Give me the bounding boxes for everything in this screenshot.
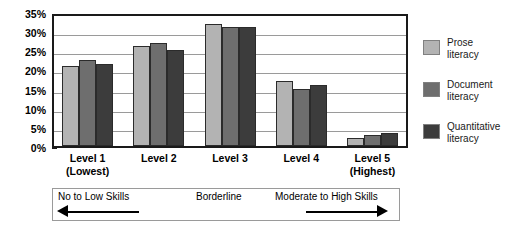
x-axis-category-label: Level 4 — [266, 152, 337, 165]
legend-swatch-icon — [423, 40, 440, 55]
legend-label-line1: Quantitative — [447, 121, 500, 132]
legend-swatch-icon — [423, 82, 440, 97]
x-axis-category-label: Level 1(Lowest) — [52, 152, 123, 178]
y-axis-tick-label: 35% — [0, 9, 46, 20]
bar — [62, 66, 79, 146]
bar-group — [347, 16, 398, 146]
annotation-borderline: Borderline — [196, 191, 242, 202]
y-axis-tick-label: 25% — [0, 47, 46, 58]
y-axis: 0%5%10%15%20%25%30%35% — [0, 8, 46, 154]
plot-area — [52, 14, 408, 148]
legend-item[interactable]: Documentliteracy — [423, 80, 519, 114]
x-axis-category-line1: Level 4 — [283, 152, 319, 164]
skills-annotation-band: No to Low Skills Borderline Moderate to … — [52, 188, 400, 221]
x-axis-category-line1: Level 3 — [212, 152, 248, 164]
x-axis-category-line2: (Highest) — [337, 165, 408, 178]
bar-group — [205, 16, 256, 146]
legend-label-line1: Document — [447, 79, 493, 90]
bar — [310, 85, 327, 146]
bar — [276, 81, 293, 146]
legend-label-line1: Prose — [447, 37, 473, 48]
annotation-no-to-low-skills: No to Low Skills — [58, 191, 129, 202]
bar — [133, 46, 150, 146]
bar-chart-figure: 0%5%10%15%20%25%30%35% Level 1(Lowest)Le… — [0, 0, 519, 234]
bar — [205, 24, 222, 147]
bars-layer — [54, 16, 406, 146]
right-arrow-icon — [306, 211, 378, 213]
x-axis-category-label: Level 3 — [194, 152, 265, 165]
x-axis-category-labels: Level 1(Lowest)Level 2Level 3Level 4Leve… — [52, 152, 408, 186]
legend-label: Quantitativeliteracy — [447, 121, 519, 144]
left-arrow-icon — [67, 211, 139, 213]
legend-label-line2: literacy — [447, 49, 479, 60]
right-arrow-head-icon — [377, 205, 388, 217]
annotation-moderate-to-high-skills: Moderate to High Skills — [275, 191, 378, 202]
legend-label-line2: literacy — [447, 91, 479, 102]
bar — [293, 89, 310, 146]
y-axis-tick-label: 10% — [0, 104, 46, 115]
bar-group — [133, 16, 184, 146]
bar — [167, 50, 184, 146]
bar — [381, 133, 398, 146]
legend: ProseliteracyDocumentliteracyQuantitativ… — [423, 38, 519, 164]
legend-label: Proseliteracy — [447, 37, 519, 60]
x-axis-category-line2: (Lowest) — [52, 165, 123, 178]
y-axis-tickmark — [52, 148, 57, 149]
y-axis-tick-label: 30% — [0, 28, 46, 39]
legend-swatch-icon — [423, 124, 440, 139]
bar — [364, 135, 381, 146]
bar — [96, 64, 113, 146]
bar — [79, 60, 96, 146]
left-arrow-head-icon — [57, 205, 68, 217]
bar — [239, 27, 256, 146]
bar-group — [276, 16, 327, 146]
x-axis-category-line1: Level 5 — [355, 152, 391, 164]
legend-item[interactable]: Quantitativeliteracy — [423, 122, 519, 156]
bar — [222, 27, 239, 146]
bar-group — [62, 16, 113, 146]
y-axis-tick-label: 20% — [0, 66, 46, 77]
y-axis-tick-label: 5% — [0, 123, 46, 134]
bar — [347, 138, 364, 146]
bar — [150, 43, 167, 146]
x-axis-category-label: Level 2 — [123, 152, 194, 165]
y-axis-tick-label: 15% — [0, 85, 46, 96]
legend-label-line2: literacy — [447, 133, 479, 144]
legend-item[interactable]: Proseliteracy — [423, 38, 519, 72]
x-axis-category-label: Level 5(Highest) — [337, 152, 408, 178]
y-axis-tick-label: 0% — [0, 143, 46, 154]
legend-label: Documentliteracy — [447, 79, 519, 102]
x-axis-category-line1: Level 1 — [70, 152, 106, 164]
x-axis-category-line1: Level 2 — [141, 152, 177, 164]
